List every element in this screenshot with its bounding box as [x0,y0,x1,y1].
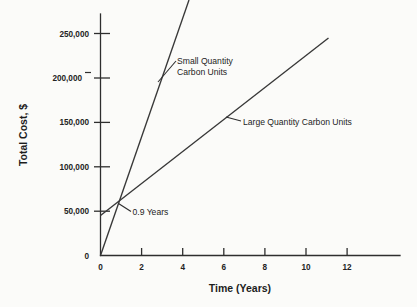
y-tick-labels: 250,000 200,000 150,000 100,000 50,000 0 [52,30,89,261]
leader-line-breakeven [119,204,132,212]
x-tick-label-12: 12 [343,263,353,272]
series-line-small-quantity-carbon-units [101,0,190,256]
y-tick-label-0: 0 [84,252,89,261]
x-tick-marks [142,248,348,256]
x-tick-label-10: 10 [301,263,311,272]
annotation-label-breakeven: 0.9 Years [133,207,169,217]
chart-figure: 250,000 200,000 150,000 100,000 50,000 0… [0,0,417,307]
annotation-label-small-quantity-line1: Small Quantity [177,56,234,66]
series-group [101,0,329,256]
annotation-label-small-quantity-line2: Carbon Units [177,67,227,77]
annotation-breakeven: 0.9 Years [119,204,169,217]
chart-canvas: 250,000 200,000 150,000 100,000 50,000 0… [0,0,417,307]
axis-group [101,14,401,256]
y-tick-label-100000: 100,000 [59,163,89,172]
y-tick-label-250000: 250,000 [59,30,89,39]
y-tick-label-50000: 50,000 [64,207,89,216]
annotation-large-quantity: Large Quantity Carbon Units [226,117,352,127]
x-tick-labels: 0 2 4 6 8 10 12 [98,263,352,272]
y-axis-title: Total Cost, $ [17,104,29,166]
annotation-small-quantity: Small Quantity Carbon Units [158,56,234,82]
y-tick-label-150000: 150,000 [59,118,89,127]
x-tick-label-8: 8 [263,263,268,272]
x-axis-title: Time (Years) [209,282,271,294]
annotation-label-large-quantity: Large Quantity Carbon Units [243,117,352,127]
x-tick-label-4: 4 [180,263,185,272]
y-tick-label-200000: 200,000 [52,74,82,83]
leader-line-large-quantity [226,117,241,121]
x-tick-label-6: 6 [222,263,227,272]
x-tick-label-0: 0 [98,263,103,272]
x-tick-label-2: 2 [139,263,144,272]
